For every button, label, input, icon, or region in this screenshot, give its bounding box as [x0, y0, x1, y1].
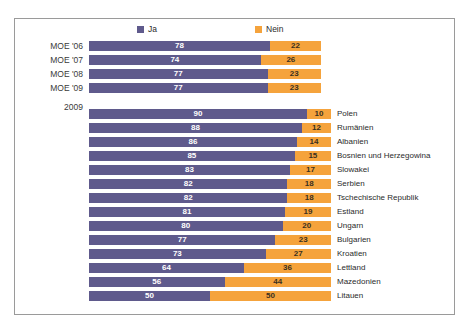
bar-value-nein: 18 — [305, 194, 314, 202]
bar-value-nein: 27 — [294, 250, 303, 258]
bar-segment-nein: 27 — [266, 249, 331, 259]
bar-segment-ja: 78 — [89, 41, 270, 51]
bar-value-ja: 82 — [184, 194, 193, 202]
bar-value-nein: 20 — [302, 222, 311, 230]
bar-segment-ja: 50 — [89, 291, 210, 301]
bar-segment-ja: 90 — [89, 109, 307, 119]
chart-row: 8218Serbien — [15, 177, 456, 191]
stacked-bar: 7723 — [89, 83, 321, 93]
country-label: Litauen — [337, 289, 363, 303]
country-label: Lettland — [337, 261, 365, 275]
chart-row: 8614Albanien — [15, 135, 456, 149]
legend-label-ja: Ja — [148, 24, 157, 34]
bar-segment-ja: 77 — [89, 83, 268, 93]
bar-value-ja: 82 — [184, 180, 193, 188]
bar-value-ja: 80 — [181, 222, 190, 230]
bar-segment-ja: 86 — [89, 137, 297, 147]
legend-item-nein[interactable]: Nein — [255, 24, 283, 34]
bar-value-nein: 12 — [312, 124, 321, 132]
stacked-bar: 8218 — [89, 179, 331, 189]
legend-swatch-ja — [137, 26, 144, 33]
stacked-bar: 7822 — [89, 41, 321, 51]
bar-segment-ja: 88 — [89, 123, 302, 133]
chart-row: 8020Ungarn — [15, 219, 456, 233]
chart-row: 8812Rumänien — [15, 121, 456, 135]
legend-item-ja[interactable]: Ja — [137, 24, 157, 34]
stacked-bar: 5050 — [89, 291, 331, 301]
bar-segment-nein: 44 — [225, 277, 331, 287]
bar-segment-nein: 23 — [268, 83, 321, 93]
country-label: Kroatien — [337, 247, 367, 261]
country-label: Serbien — [337, 177, 365, 191]
chart-row: MOE '077426 — [15, 53, 456, 67]
bar-value-ja: 74 — [170, 56, 179, 64]
bar-segment-ja: 64 — [89, 263, 244, 273]
bar-segment-ja: 77 — [89, 235, 275, 245]
chart-row: 8515Bosnien und Herzegowina — [15, 149, 456, 163]
bar-value-nein: 23 — [290, 84, 299, 92]
chart-frame: Ja Nein MOE '067822MOE '077426MOE '08772… — [14, 18, 455, 315]
bar-value-nein: 23 — [290, 70, 299, 78]
bar-segment-nein: 20 — [283, 221, 331, 231]
country-label: Rumänien — [337, 121, 373, 135]
bar-segment-nein: 15 — [295, 151, 331, 161]
stacked-bar: 6436 — [89, 263, 331, 273]
country-label: Mazedonien — [337, 275, 381, 289]
country-label: Ungarn — [337, 219, 363, 233]
bar-segment-ja: 80 — [89, 221, 283, 231]
bar-segment-nein: 19 — [285, 207, 331, 217]
chart-row: MOE '097723 — [15, 81, 456, 95]
country-label: Estland — [337, 205, 364, 219]
bar-value-ja: 73 — [173, 250, 182, 258]
stacked-bar: 8614 — [89, 137, 331, 147]
chart-row: 6436Lettland — [15, 261, 456, 275]
stacked-bar: 5644 — [89, 277, 331, 287]
stacked-bar: 7723 — [89, 235, 331, 245]
country-label: Bosnien und Herzegowina — [337, 149, 430, 163]
chart-row: 7327Kroatien — [15, 247, 456, 261]
bar-value-ja: 88 — [191, 124, 200, 132]
bar-value-nein: 44 — [273, 278, 282, 286]
bar-value-ja: 64 — [162, 264, 171, 272]
chart-row: MOE '087723 — [15, 67, 456, 81]
bar-value-ja: 50 — [145, 292, 154, 300]
row-label: MOE '09 — [15, 81, 83, 95]
row-label: MOE '08 — [15, 67, 83, 81]
chart-row: 5644Mazedonien — [15, 275, 456, 289]
bar-segment-nein: 50 — [210, 291, 331, 301]
bar-segment-ja: 81 — [89, 207, 285, 217]
country-label: Polen — [337, 107, 357, 121]
chart-row: 9010Polen — [15, 107, 456, 121]
bar-segment-nein: 12 — [302, 123, 331, 133]
chart-row: 5050Litauen — [15, 289, 456, 303]
bar-segment-nein: 18 — [287, 179, 331, 189]
stacked-bar: 7327 — [89, 249, 331, 259]
bar-segment-nein: 26 — [261, 55, 321, 65]
bar-value-ja: 86 — [189, 138, 198, 146]
bar-segment-nein: 17 — [290, 165, 331, 175]
chart-group-countries-2009: 9010Polen8812Rumänien8614Albanien8515Bos… — [15, 107, 456, 303]
chart-row: 8317Slowakei — [15, 163, 456, 177]
bar-value-ja: 83 — [185, 166, 194, 174]
bar-segment-nein: 36 — [244, 263, 331, 273]
bar-segment-ja: 74 — [89, 55, 261, 65]
stacked-bar: 8515 — [89, 151, 331, 161]
bar-value-ja: 90 — [193, 110, 202, 118]
bar-value-ja: 78 — [175, 42, 184, 50]
stacked-bar: 7723 — [89, 69, 321, 79]
bar-value-nein: 22 — [291, 42, 300, 50]
stacked-bar: 9010 — [89, 109, 331, 119]
bar-segment-nein: 23 — [268, 69, 321, 79]
row-label: MOE '07 — [15, 53, 83, 67]
bar-value-nein: 10 — [314, 110, 323, 118]
bar-value-nein: 14 — [310, 138, 319, 146]
stacked-bar: 8317 — [89, 165, 331, 175]
country-label: Slowakei — [337, 163, 369, 177]
bar-segment-ja: 82 — [89, 193, 287, 203]
chart-row: 7723Bulgarien — [15, 233, 456, 247]
legend-swatch-nein — [255, 26, 262, 33]
bar-value-ja: 77 — [174, 70, 183, 78]
bar-value-nein: 17 — [306, 166, 315, 174]
bar-segment-nein: 23 — [275, 235, 331, 245]
bar-value-nein: 26 — [286, 56, 295, 64]
